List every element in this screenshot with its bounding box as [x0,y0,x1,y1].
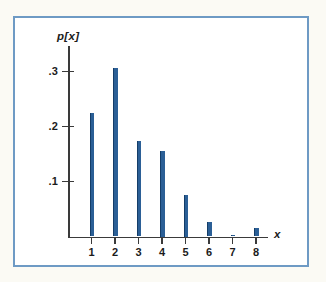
plot-area: p[x] x .1.2.3 12345678 [0,0,326,282]
x-axis-tick-label: 1 [84,246,100,258]
y-axis-title: p[x] [57,30,79,42]
x-axis-tick [91,237,93,244]
y-axis-tick [62,71,74,73]
bar [160,151,165,236]
x-axis-tick [255,237,257,244]
x-axis-tick-label: 7 [225,246,241,258]
x-axis-tick [185,237,187,244]
bar [90,113,95,236]
bar [207,222,212,237]
y-axis-tick-label: .3 [38,65,58,77]
x-axis-tick [114,237,116,244]
x-axis-line [68,237,268,239]
bar [231,235,236,236]
x-axis-title: x [274,228,280,240]
y-axis-tick-label: .1 [38,175,58,187]
y-axis-tick [62,126,74,128]
x-axis-tick-label: 4 [154,246,170,258]
x-axis-tick-label: 8 [248,246,264,258]
x-axis-tick [161,237,163,244]
x-axis-tick-label: 5 [178,246,194,258]
bar [137,141,142,236]
figure: p[x] x .1.2.3 12345678 [0,0,326,282]
y-axis-line [68,46,70,238]
y-axis-tick [62,181,74,183]
bar [254,228,259,237]
x-axis-tick [232,237,234,244]
bar [113,68,118,236]
y-axis-tick-label: .2 [38,120,58,132]
x-axis-tick [208,237,210,244]
x-axis-tick-label: 6 [201,246,217,258]
x-axis-tick-label: 3 [131,246,147,258]
x-axis-tick-label: 2 [107,246,123,258]
x-axis-tick [138,237,140,244]
bar [184,195,189,236]
